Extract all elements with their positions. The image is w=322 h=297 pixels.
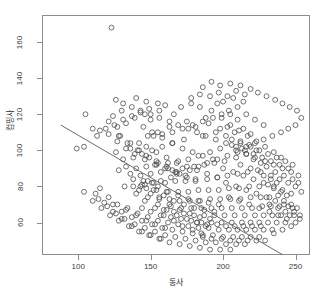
y-tick-label-text: 160 bbox=[15, 35, 24, 48]
plot-area bbox=[42, 15, 310, 255]
x-tick-mark bbox=[223, 255, 224, 260]
x-tick-label: 200 bbox=[216, 262, 229, 271]
x-tick-mark bbox=[296, 255, 297, 260]
x-tick-label: 100 bbox=[72, 262, 85, 271]
scatter-plot-figure: 6080100120140160 100150200250 컴핑사 동사 bbox=[0, 0, 322, 297]
y-tick-label: 160 bbox=[6, 36, 34, 48]
regression-line bbox=[61, 125, 299, 255]
y-tick-label: 60 bbox=[6, 217, 34, 229]
x-tick-mark bbox=[78, 255, 79, 260]
x-tick-label: 250 bbox=[289, 262, 302, 271]
y-tick-label-text: 140 bbox=[15, 72, 24, 85]
x-axis-title: 동사 bbox=[169, 276, 183, 287]
y-tick-mark bbox=[37, 223, 42, 224]
y-axis-title: 컴핑사 bbox=[2, 98, 16, 142]
y-tick-mark bbox=[37, 114, 42, 115]
regression-line-layer bbox=[42, 15, 310, 255]
y-tick-label-text: 80 bbox=[16, 182, 25, 191]
y-axis-title-text: 컴핑사 bbox=[4, 110, 15, 131]
y-tick-label-text: 120 bbox=[15, 108, 24, 121]
y-tick-label: 140 bbox=[6, 72, 34, 84]
y-tick-mark bbox=[37, 42, 42, 43]
y-tick-mark bbox=[37, 150, 42, 151]
y-tick-label-text: 60 bbox=[16, 218, 25, 227]
y-tick-mark bbox=[37, 186, 42, 187]
x-tick-label: 150 bbox=[144, 262, 157, 271]
y-tick-mark bbox=[37, 78, 42, 79]
y-tick-label-text: 100 bbox=[15, 144, 24, 157]
y-tick-label: 100 bbox=[6, 144, 34, 156]
y-tick-label: 80 bbox=[6, 180, 34, 192]
x-tick-mark bbox=[151, 255, 152, 260]
